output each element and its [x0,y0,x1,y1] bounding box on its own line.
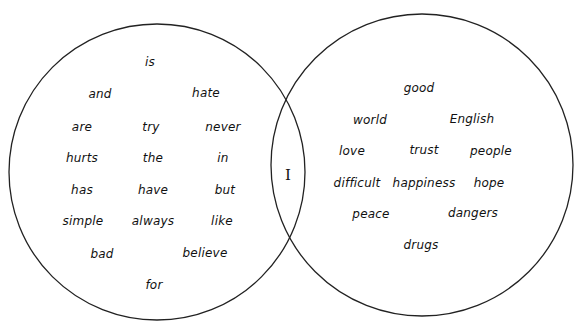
word-label: has [71,183,93,197]
word-label: love [339,144,365,158]
word-label: drugs [403,238,438,252]
word-label: trust [409,143,438,157]
word-label: people [470,144,512,158]
word-label: is [145,55,155,69]
word-label: difficult [334,176,381,190]
word-label: bad [90,247,113,261]
word-label: are [72,120,92,134]
word-label: hate [192,86,220,100]
word-label: hope [474,176,505,190]
word-label: happiness [393,176,456,190]
word-label: always [132,214,174,228]
word-label: but [215,183,236,197]
word-label: world [353,113,387,127]
left-circle [9,24,305,320]
word-label: for [145,278,162,292]
word-label: good [404,81,435,95]
word-label: the [143,151,163,165]
word-label: simple [63,214,104,228]
venn-diagram [0,0,574,330]
word-label: try [142,120,159,134]
word-label: and [88,87,111,101]
word-label: like [211,214,233,228]
word-label: hurts [66,151,98,165]
intersection-label: I [285,166,291,184]
word-label: English [450,112,495,126]
word-label: never [205,120,240,134]
word-label: peace [352,207,389,221]
right-circle [271,14,573,316]
word-label: in [217,151,228,165]
word-label: believe [183,246,228,260]
word-label: have [138,183,168,197]
word-label: dangers [448,206,498,220]
